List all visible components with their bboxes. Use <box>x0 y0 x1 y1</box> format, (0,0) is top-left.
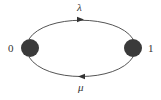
edge-0-to-1 <box>29 20 133 39</box>
state-node-1 <box>124 39 142 57</box>
state-node-0 <box>21 39 39 57</box>
edge-label-mu: μ <box>78 82 84 93</box>
node-label-0: 0 <box>8 43 14 54</box>
arrow-left-icon <box>78 74 85 79</box>
arrow-right-icon <box>77 17 84 22</box>
node-label-1: 1 <box>148 43 154 54</box>
edge-label-lambda: λ <box>77 2 82 13</box>
edge-1-to-0 <box>29 57 133 77</box>
